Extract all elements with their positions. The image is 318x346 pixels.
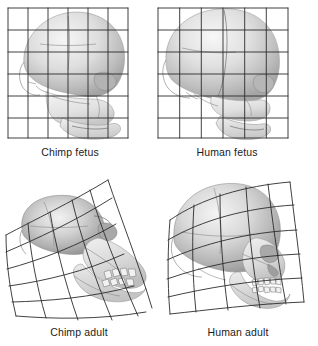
skull-transformation-figure: Chimp fetus [0,0,318,346]
chimp-fetus-ear-region [28,82,36,84]
panel-chimp-fetus: Chimp fetus [0,0,140,166]
human-adult-illustration [158,168,318,328]
panel-chimp-adult: Chimp adult [0,168,158,346]
panel-human-adult: Human adult [158,168,318,346]
human-fetus-orbit [253,74,274,92]
human-adult-skull [171,183,290,308]
chimp-fetus-skull [20,12,125,139]
human-fetus-illustration [152,0,302,150]
caption-human-fetus: Human fetus [152,146,302,158]
caption-chimp-fetus: Chimp fetus [0,146,140,158]
panel-human-fetus: Human fetus [152,0,302,166]
chimp-adult-illustration [0,168,158,328]
caption-chimp-adult: Chimp adult [0,326,158,338]
chimp-adult-skull [20,195,146,301]
chimp-fetus-illustration [0,0,140,150]
caption-human-adult: Human adult [158,326,318,338]
chimp-fetus-orbit [94,72,116,90]
